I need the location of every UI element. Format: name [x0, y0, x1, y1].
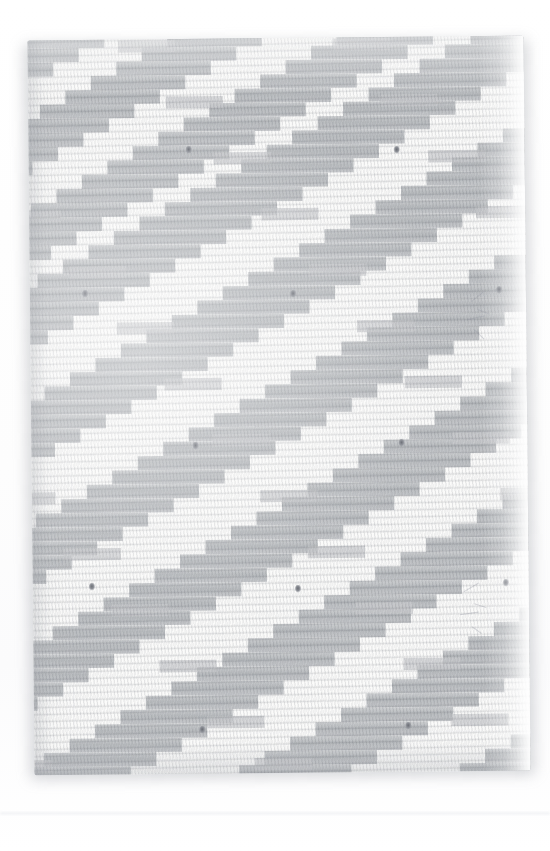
stitch-dash-texture [27, 36, 530, 776]
blanket-fabric [27, 36, 530, 776]
backdrop-seam-line [0, 812, 550, 815]
blanket-object [27, 36, 530, 776]
photo-scene: Crocheted mosaic blanket photograph Hand… [0, 0, 550, 851]
